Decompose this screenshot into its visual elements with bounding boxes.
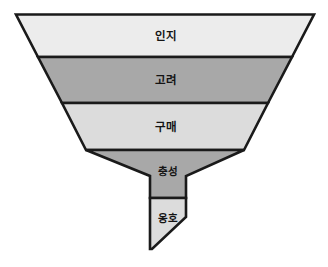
funnel-stage-label-advocacy: 옹호 [158, 212, 179, 224]
funnel-stage-label-awareness: 인지 [155, 29, 178, 43]
funnel-stage-label-consideration: 고려 [155, 73, 178, 87]
funnel-svg: 인지 고려 구매 충성 옹호 [0, 0, 328, 267]
funnel-diagram: 인지 고려 구매 충성 옹호 [0, 0, 328, 267]
funnel-stage-label-loyalty: 충성 [158, 165, 179, 177]
funnel-stage-label-purchase: 구매 [155, 120, 178, 134]
